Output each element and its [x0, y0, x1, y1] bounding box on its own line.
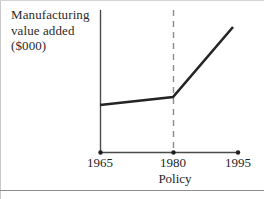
x-tick-label-1995: 1995 — [225, 155, 251, 171]
figure-container: Manufacturing value added ($000) 1965 19… — [0, 0, 264, 199]
x-tick-label-1965: 1965 — [87, 155, 113, 171]
x-tick-label-1980: 1980 — [160, 155, 186, 171]
x-axis-title: Policy — [158, 171, 191, 187]
data-series-line — [100, 27, 233, 105]
